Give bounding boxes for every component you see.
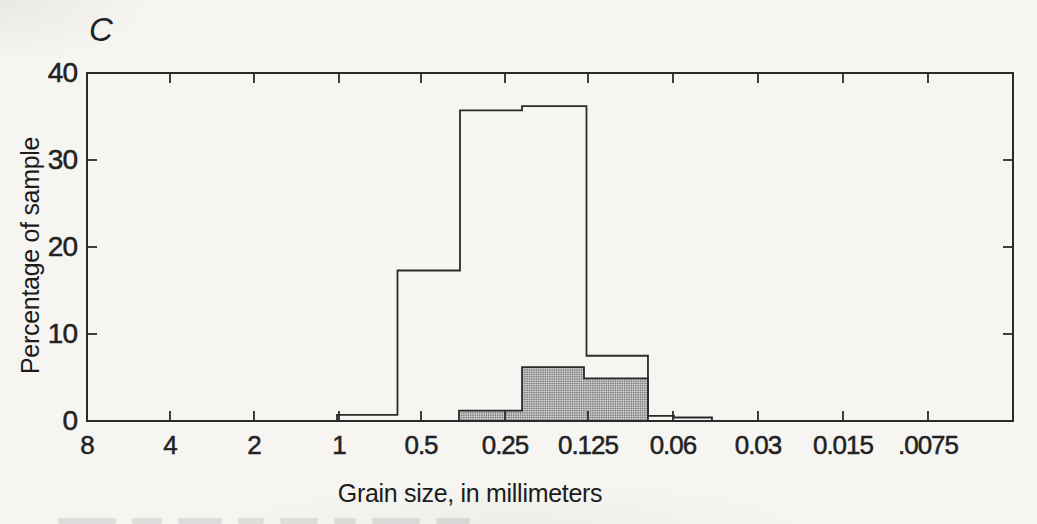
x-tick-label: 0.25 bbox=[482, 430, 529, 460]
x-tick-label: 4 bbox=[163, 430, 177, 460]
x-tick-label: .0075 bbox=[898, 430, 959, 460]
x-tick-label: 0.125 bbox=[558, 430, 619, 460]
cropped-caption-scan-artifact bbox=[58, 518, 470, 524]
shaded-histogram-path bbox=[459, 367, 648, 421]
scan-smudge bbox=[238, 518, 264, 524]
x-tick-label: 0.5 bbox=[404, 430, 438, 460]
x-tick-label: 8 bbox=[80, 430, 94, 460]
y-tick-label: 30 bbox=[48, 144, 78, 175]
scan-smudge bbox=[178, 518, 222, 524]
scan-smudge bbox=[280, 518, 318, 524]
y-tick-label: 40 bbox=[48, 57, 78, 88]
x-tick-label: 0.06 bbox=[650, 430, 697, 460]
y-tick-label: 0 bbox=[62, 405, 77, 436]
scan-smudge bbox=[372, 518, 420, 524]
scan-smudge bbox=[334, 518, 356, 524]
scan-smudge bbox=[132, 518, 162, 524]
x-tick-label: 1 bbox=[332, 430, 346, 460]
x-tick-label: 2 bbox=[247, 430, 261, 460]
scan-smudge bbox=[58, 518, 116, 524]
grain-size-histogram-chart: 84210.50.250.1250.060.030.015.0075010203… bbox=[0, 0, 1037, 524]
scan-smudge bbox=[436, 518, 470, 524]
plot-area: 84210.50.250.1250.060.030.015.0075010203… bbox=[48, 57, 1013, 460]
y-tick-label: 10 bbox=[48, 318, 78, 349]
y-tick-label: 20 bbox=[48, 231, 78, 262]
x-tick-label: 0.03 bbox=[735, 430, 782, 460]
x-axis-title: Grain size, in millimeters bbox=[338, 479, 602, 508]
x-tick-label: 0.015 bbox=[813, 430, 874, 460]
